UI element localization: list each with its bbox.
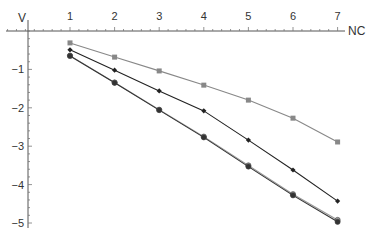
square-marker — [157, 68, 162, 73]
y-tick-label: −2 — [11, 102, 24, 114]
circle-marker — [157, 108, 162, 113]
circle-marker — [201, 135, 206, 140]
circle-marker — [67, 53, 72, 58]
circle-marker — [246, 164, 251, 169]
y-tick-label: −4 — [11, 179, 24, 191]
y-axis-label: V — [18, 11, 26, 25]
y-tick-label: −3 — [11, 140, 24, 152]
x-tick-label: 2 — [112, 10, 118, 22]
diamond-marker — [67, 47, 72, 52]
y-tick-label: −1 — [11, 63, 24, 75]
square-marker — [246, 98, 251, 103]
series-1 — [68, 40, 341, 144]
x-tick-label: 3 — [156, 10, 162, 22]
x-tick-label: 4 — [201, 10, 207, 22]
circle-marker — [290, 193, 295, 198]
square-marker — [112, 55, 117, 60]
circle-marker — [112, 80, 117, 85]
series-4 — [67, 53, 340, 224]
diamond-marker — [112, 68, 117, 73]
y-tick-label: −5 — [11, 217, 24, 229]
square-marker — [291, 116, 296, 121]
square-marker — [68, 40, 73, 45]
x-tick-label: 6 — [290, 10, 296, 22]
square-marker — [201, 83, 206, 88]
x-tick-label: 5 — [245, 10, 251, 22]
square-marker — [335, 139, 340, 144]
circle-marker — [335, 219, 340, 224]
series-1-line — [70, 43, 338, 142]
series-group — [67, 40, 340, 224]
diamond-marker — [157, 88, 162, 93]
x-tick-label: 1 — [67, 10, 73, 22]
series-2 — [67, 47, 340, 203]
line-chart: 1234567−1−2−3−4−5 V NC — [0, 0, 370, 240]
x-tick-label: 7 — [335, 10, 341, 22]
x-axis-label: NC — [348, 24, 366, 38]
series-2-line — [70, 50, 338, 201]
